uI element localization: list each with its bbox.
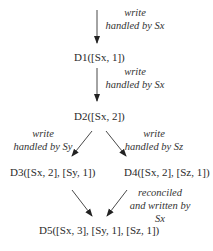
node-d1: D1([Sx, 1]) <box>74 51 125 63</box>
edge-label-line: handled by Sx <box>102 78 168 91</box>
edge-label-reconciled-sx: reconciled and written by Sx <box>128 186 192 225</box>
node-d3: D3([Sx, 2], [Sy, 1]) <box>10 166 95 178</box>
arrow-d3-to-d5 <box>72 190 92 216</box>
arrow-d4-to-d5 <box>107 190 127 216</box>
edge-label-line: and written by <box>128 199 192 212</box>
edge-label-line: write <box>10 127 76 140</box>
edge-label-write-sx-1: write handled by Sx <box>102 6 168 32</box>
edge-label-write-sz: write handled by Sz <box>121 127 187 153</box>
edge-label-write-sy: write handled by Sy <box>10 127 76 153</box>
node-d5: D5([Sx, 3], [Sy, 1], [Sz, 1]) <box>39 224 159 236</box>
node-d2: D2([Sx, 2]) <box>74 110 125 122</box>
edge-label-line: write <box>121 127 187 140</box>
edge-label-line: reconciled <box>128 186 192 199</box>
edge-label-line: handled by Sx <box>102 19 168 32</box>
edge-label-line: handled by Sy <box>10 140 76 153</box>
edge-label-write-sx-2: write handled by Sx <box>102 65 168 91</box>
edge-label-line: write <box>102 6 168 19</box>
node-d4: D4([Sx, 2], [Sz, 1]) <box>124 166 210 178</box>
edge-label-line: handled by Sz <box>121 140 187 153</box>
edge-label-line: write <box>102 65 168 78</box>
